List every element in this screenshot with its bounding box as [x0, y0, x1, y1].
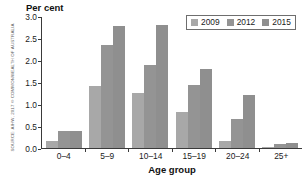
- chart-legend: 200920122015: [186, 15, 296, 30]
- bar-2009-10–14: [132, 93, 144, 148]
- y-axis-tick-mark: [38, 149, 41, 150]
- bar-2009-20–24: [219, 141, 231, 148]
- y-axis-tick-label: 0.0: [11, 144, 41, 154]
- x-axis-title: Age group: [0, 164, 308, 175]
- legend-item-2009: 2009: [191, 17, 220, 27]
- bar-group: [172, 17, 215, 148]
- x-axis-tick-label: 25+: [260, 151, 304, 161]
- bar-2012-0–4: [58, 131, 70, 148]
- bar-2009-0–4: [46, 141, 58, 148]
- legend-label: 2015: [272, 17, 291, 27]
- y-axis-tick-mark: [38, 105, 41, 106]
- y-axis-tick-label: 2.5: [11, 34, 41, 44]
- x-axis-tick-labels: 0–45–910–1415–1920–2425+: [42, 151, 303, 161]
- x-axis-tick-label: 15–19: [173, 151, 217, 161]
- y-axis-tick-mark: [38, 127, 41, 128]
- bar-2015-15–19: [200, 69, 212, 148]
- y-axis-tick-label: 1.5: [11, 78, 41, 88]
- x-axis-tick-label: 10–14: [129, 151, 173, 161]
- y-axis-tick-label: 2.0: [11, 56, 41, 66]
- x-axis-tick-label: 20–24: [216, 151, 260, 161]
- bar-2012-20–24: [231, 119, 243, 148]
- legend-swatch-icon: [191, 19, 198, 26]
- bar-2009-5–9: [89, 86, 101, 148]
- legend-item-2015: 2015: [262, 17, 291, 27]
- legend-swatch-icon: [262, 19, 269, 26]
- chart-figure: SOURCE: AIHW, 2017 © COMMONWEALTH OF AUS…: [0, 0, 308, 188]
- y-axis-tick-mark: [38, 17, 41, 18]
- bar-group: [129, 17, 172, 148]
- x-axis-tick-label: 0–4: [42, 151, 86, 161]
- bar-2015-20–24: [243, 95, 255, 148]
- plot-area: 0.00.51.01.52.02.53.0: [41, 17, 302, 149]
- bar-2012-25+: [274, 144, 286, 148]
- bar-group: [215, 17, 258, 148]
- legend-label: 2009: [201, 17, 220, 27]
- legend-item-2012: 2012: [227, 17, 256, 27]
- bar-2009-25+: [262, 147, 274, 148]
- y-axis-tick-mark: [38, 61, 41, 62]
- bar-2015-0–4: [70, 131, 82, 148]
- bar-series-layer: [42, 17, 302, 148]
- bar-group: [42, 17, 85, 148]
- bar-2012-10–14: [144, 65, 156, 148]
- legend-swatch-icon: [227, 19, 234, 26]
- bar-2015-25+: [286, 143, 298, 148]
- y-axis-tick-label: 0.5: [11, 122, 41, 132]
- bar-group: [85, 17, 128, 148]
- y-axis-tick-label: 3.0: [11, 12, 41, 22]
- bar-group: [259, 17, 302, 148]
- bar-2009-15–19: [176, 112, 188, 148]
- y-axis-tick-mark: [38, 39, 41, 40]
- bar-2012-15–19: [188, 85, 200, 148]
- bar-2012-5–9: [101, 45, 113, 148]
- y-axis-tick-label: 1.0: [11, 100, 41, 110]
- bar-2015-10–14: [156, 25, 168, 148]
- y-axis-tick-mark: [38, 83, 41, 84]
- x-axis-tick-label: 5–9: [86, 151, 130, 161]
- legend-label: 2012: [237, 17, 256, 27]
- bar-2015-5–9: [113, 26, 125, 148]
